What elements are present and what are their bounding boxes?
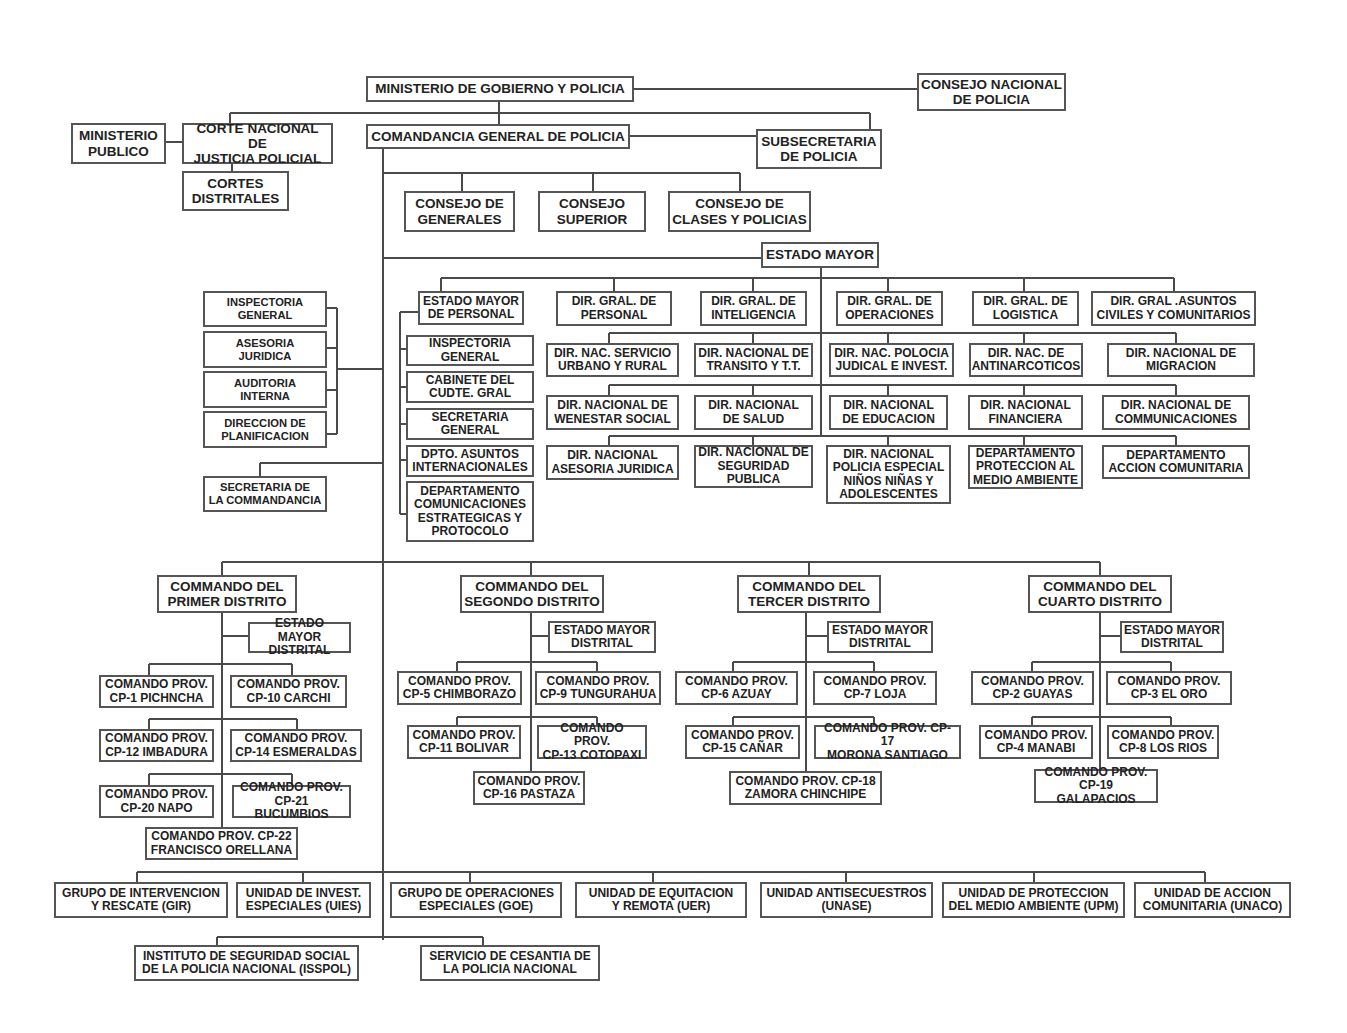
district-3-estado-mayor-box[interactable]: ESTADO MAYOR DISTRITAL — [827, 621, 933, 653]
district-2-cp5-box[interactable]: COMANDO PROV. CP-5 CHIMBORAZO — [397, 671, 522, 705]
consejo-generales-box[interactable]: CONSEJO DE GENERALES — [404, 191, 515, 232]
dir-nac-seguridad-publica-box[interactable]: DIR. NACIONAL DE SEGURIDAD PUBLICA — [694, 445, 813, 488]
dir-gral-operaciones-box[interactable]: DIR. GRAL. DE OPERACIONES — [836, 291, 943, 326]
district-4-cp3-box[interactable]: COMANDO PROV. CP-3 EL ORO — [1106, 671, 1232, 705]
district-4-cp4-box[interactable]: COMANDO PROV. CP-4 MANABI — [979, 725, 1093, 759]
dir-gral-inteligencia-box[interactable]: DIR. GRAL. DE INTELIGENCIA — [700, 291, 807, 326]
district-2-cp11-box[interactable]: COMANDO PROV. CP-11 BOLIVAR — [407, 725, 521, 759]
dir-nac-asesoria-juridica-box[interactable]: DIR. NACIONAL ASESORIA JURIDICA — [546, 445, 679, 480]
personal-inspectoria-box[interactable]: INSPECTORIA GENERAL — [406, 335, 534, 366]
district-1-cp10-box[interactable]: COMANDO PROV. CP-10 CARCHI — [230, 675, 347, 708]
staff-asesoria-box[interactable]: ASESORIA JURIDICA — [203, 331, 327, 368]
district-3-title-box[interactable]: COMMANDO DEL TERCER DISTRITO — [737, 575, 881, 613]
dir-nac-antinarcoticos-box[interactable]: DIR. NAC. DE ANTINARCOTICOS — [969, 343, 1083, 377]
depto-accion-comunitaria-box[interactable]: DEPARTAMENTO ACCION COMUNITARIA — [1102, 445, 1250, 479]
district-4-cp19-box[interactable]: COMANDO PROV. CP-19 GALAPACIOS — [1034, 769, 1158, 803]
district-3-cp17-box[interactable]: COMANDO PROV. CP-17 MORONA SANTIAGO — [814, 725, 961, 759]
district-3-cp7-box[interactable]: COMANDO PROV. CP-7 LOJA — [813, 671, 937, 705]
dir-gral-personal-box[interactable]: DIR. GRAL. DE PERSONAL — [556, 291, 672, 326]
org-chart: MINISTERIO DE GOBIERNO Y POLICIA CONSEJO… — [0, 0, 1347, 1033]
district-1-cp21-box[interactable]: COMANDO PROV. CP-21 BUCUMBIOS — [232, 785, 351, 818]
staff-auditoria-box[interactable]: AUDITORIA INTERNA — [203, 371, 327, 408]
dir-gral-asuntos-civiles-box[interactable]: DIR. GRAL .ASUNTOS CIVILES Y COMUNITARIO… — [1091, 291, 1256, 326]
staff-inspectoria-box[interactable]: INSPECTORIA GENERAL — [203, 291, 327, 327]
district-1-cp1-box[interactable]: COMANDO PROV. CP-1 PICHNCHA — [99, 675, 214, 708]
dir-nac-comunicaciones-box[interactable]: DIR. NACIONAL DE COMMUNICACIONES — [1102, 395, 1250, 430]
district-2-cp16-box[interactable]: COMANDO PROV. CP-16 PASTAZA — [473, 771, 585, 805]
unit-goe-box[interactable]: GRUPO DE OPERACIONES ESPECIALES (GOE) — [390, 882, 562, 918]
consejo-superior-box[interactable]: CONSEJO SUPERIOR — [538, 191, 646, 232]
district-4-cp2-box[interactable]: COMANDO PROV. CP-2 GUAYAS — [971, 671, 1094, 705]
estado-mayor-box[interactable]: ESTADO MAYOR — [761, 242, 879, 268]
dir-gral-logistica-box[interactable]: DIR. GRAL. DE LOGISTICA — [972, 291, 1079, 326]
unit-unase-box[interactable]: UNIDAD ANTISECUESTROS (UNASE) — [760, 882, 933, 918]
dir-nac-educacion-box[interactable]: DIR. NACIONAL DE EDUCACION — [829, 395, 948, 430]
estado-mayor-personal-box[interactable]: ESTADO MAYOR DE PERSONAL — [418, 291, 524, 325]
corte-nacional-box[interactable]: CORTE NACIONAL DE JUSTICIA POLICIAL — [182, 123, 333, 164]
district-2-cp13-box[interactable]: COMANDO PROV. CP-13 COTOPAXI — [537, 725, 647, 759]
dir-nac-policia-especial-box[interactable]: DIR. NACIONAL POLICIA ESPECIAL NIÑOS NIÑ… — [826, 445, 951, 504]
district-2-cp9-box[interactable]: COMANDO PROV. CP-9 TUNGURAHUA — [535, 671, 661, 705]
consejo-clases-box[interactable]: CONSEJO DE CLASES Y POLICIAS — [668, 191, 811, 232]
unit-upm-box[interactable]: UNIDAD DE PROTECCION DEL MEDIO AMBIENTE … — [942, 882, 1125, 918]
personal-asuntos-internacionales-box[interactable]: DPTO. ASUNTOS INTERNACIONALES — [406, 445, 534, 477]
unit-unaco-box[interactable]: UNIDAD DE ACCION COMUNITARIA (UNACO) — [1134, 882, 1291, 918]
depto-medio-ambiente-box[interactable]: DEPARTAMENTO PROTECCION AL MEDIO AMBIENT… — [968, 445, 1083, 489]
district-3-cp18-box[interactable]: COMANDO PROV. CP-18 ZAMORA CHINCHIPE — [729, 771, 882, 805]
district-4-estado-mayor-box[interactable]: ESTADO MAYOR DISTRITAL — [1120, 621, 1224, 653]
personal-cabinete-box[interactable]: CABINETE DEL CUDTE. GRAL — [406, 371, 534, 403]
comandancia-general-box[interactable]: COMANDANCIA GENERAL DE POLICIA — [366, 124, 630, 149]
servicio-cesantia-box[interactable]: SERVICIO DE CESANTIA DE LA POLICIA NACIO… — [420, 945, 600, 981]
dir-nac-bienestar-box[interactable]: DIR. NACIONAL DE WENESTAR SOCIAL — [546, 395, 679, 430]
dir-nac-migracion-box[interactable]: DIR. NACIONAL DE MIGRACION — [1107, 343, 1255, 377]
district-1-title-box[interactable]: COMMANDO DEL PRIMER DISTRITO — [157, 575, 297, 613]
unit-uer-box[interactable]: UNIDAD DE EQUITACION Y REMOTA (UER) — [575, 882, 747, 918]
district-4-title-box[interactable]: COMMANDO DEL CUARTO DISTRITO — [1028, 575, 1172, 613]
district-4-cp8-box[interactable]: COMANDO PROV. CP-8 LOS RIOS — [1107, 725, 1219, 759]
unit-uies-box[interactable]: UNIDAD DE INVEST. ESPECIALES (UIES) — [236, 882, 371, 918]
dir-nac-transito-box[interactable]: DIR. NACIONAL DE TRANSITO Y T.T. — [694, 343, 813, 377]
district-1-estado-mayor-box[interactable]: ESTADO MAYOR DISTRITAL — [248, 622, 351, 653]
unit-gir-box[interactable]: GRUPO DE INTERVENCION Y RESCATE (GIR) — [54, 882, 228, 918]
district-3-cp15-box[interactable]: COMANDO PROV. CP-15 CAÑAR — [685, 725, 800, 759]
dir-nac-salud-box[interactable]: DIR. NACIONAL DE SALUD — [694, 395, 813, 430]
district-2-title-box[interactable]: COMMANDO DEL SEGONDO DISTRITO — [460, 575, 604, 613]
personal-comunicaciones-box[interactable]: DEPARTAMENTO COMUNICACIONES ESTRATEGICAS… — [406, 481, 534, 542]
staff-planificacion-box[interactable]: DIRECCION DE PLANIFICACION — [203, 411, 327, 448]
ministerio-gobierno-box[interactable]: MINISTERIO DE GOBIERNO Y POLICIA — [366, 76, 634, 102]
district-1-cp22-box[interactable]: COMANDO PROV. CP-22 FRANCISCO ORELLANA — [145, 827, 298, 860]
personal-secretaria-box[interactable]: SECRETARIA GENERAL — [406, 408, 534, 440]
dir-nac-financiera-box[interactable]: DIR. NACIONAL FINANCIERA — [968, 395, 1083, 430]
cortes-distritales-box[interactable]: CORTES DISTRITALES — [182, 171, 289, 211]
district-1-cp14-box[interactable]: COMANDO PROV. CP-14 ESMERALDAS — [230, 729, 362, 762]
district-1-cp12-box[interactable]: COMANDO PROV. CP-12 IMBADURA — [99, 729, 214, 762]
ministerio-publico-box[interactable]: MINISTERIO PUBLICO — [71, 123, 166, 164]
district-3-cp6-box[interactable]: COMANDO PROV. CP-6 AZUAY — [675, 671, 798, 705]
secretaria-commandancia-box[interactable]: SECRETARIA DE LA COMMANDANCIA — [203, 476, 327, 512]
district-2-estado-mayor-box[interactable]: ESTADO MAYOR DISTRITAL — [548, 621, 656, 653]
subsecretaria-box[interactable]: SUBSECRETARIA DE POLICIA — [756, 129, 882, 169]
dir-nac-servicio-urbano-box[interactable]: DIR. NAC. SERVICIO URBANO Y RURAL — [546, 343, 679, 377]
dir-nac-policia-judicial-box[interactable]: DIR. NAC. POLOCIA JUDICAL E INVEST. — [829, 343, 954, 377]
isspol-box[interactable]: INSTITUTO DE SEGURIDAD SOCIAL DE LA POLI… — [134, 945, 359, 981]
consejo-nacional-box[interactable]: CONSEJO NACIONAL DE POLICIA — [917, 73, 1066, 111]
district-1-cp20-box[interactable]: COMANDO PROV. CP-20 NAPO — [99, 785, 214, 818]
